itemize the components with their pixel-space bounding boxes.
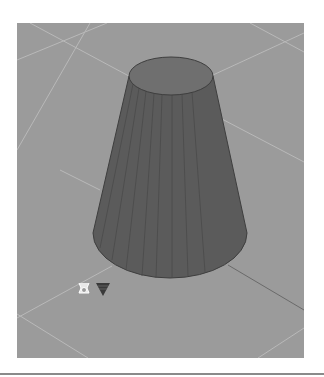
cone-model[interactable] xyxy=(93,57,247,278)
triangle-down-icon[interactable] xyxy=(96,283,110,296)
3d-viewport[interactable] xyxy=(17,23,304,358)
x-axis-line xyxy=(228,265,304,310)
divider xyxy=(0,373,324,375)
cone-top-face xyxy=(129,57,213,95)
cone-side xyxy=(93,76,247,278)
scene xyxy=(17,23,304,358)
origin-gizmo-icon[interactable] xyxy=(78,282,90,295)
